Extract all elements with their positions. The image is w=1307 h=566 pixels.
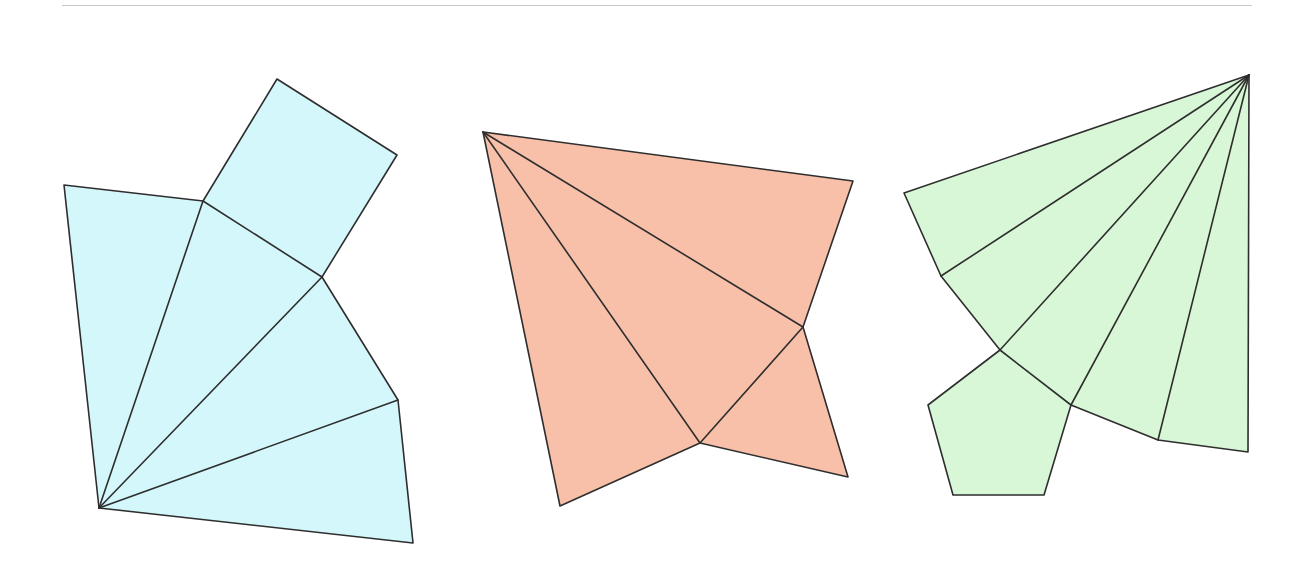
salmon-net <box>483 132 853 506</box>
salmon-net-outline <box>483 132 853 506</box>
cyan-net <box>64 79 413 543</box>
green-net <box>904 75 1249 495</box>
nets-canvas <box>0 0 1307 566</box>
cyan-net-outline <box>64 79 413 543</box>
